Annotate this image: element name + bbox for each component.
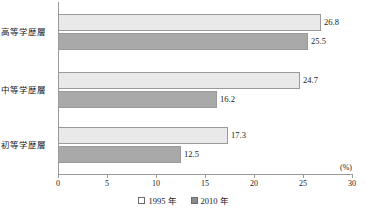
bar-2-1995 (58, 127, 228, 144)
legend-item-1995: 1995 年 (138, 194, 176, 206)
bar-chart: 高等学歴層 中等学歴層 初等学歴層 26.8 25.5 24.7 16.2 17… (0, 0, 367, 214)
x-tick-label-1: 5 (105, 179, 109, 188)
bar-value-0-1995: 26.8 (324, 14, 339, 31)
legend-label-1995: 1995 年 (148, 194, 176, 206)
x-tick-3 (205, 174, 206, 178)
x-tick-label-2: 10 (152, 179, 160, 188)
bar-value-0-2010: 25.5 (311, 33, 326, 50)
legend-item-2010: 2010 年 (191, 194, 229, 206)
bar-value-2-2010: 12.5 (184, 146, 199, 163)
bar-value-1-2010: 16.2 (220, 91, 235, 108)
bar-0-1995 (58, 14, 321, 31)
category-label-1: 中等学歴層 (1, 83, 57, 95)
bar-2-2010 (58, 146, 181, 163)
x-tick-label-3: 15 (201, 179, 209, 188)
bar-value-2-1995: 17.3 (231, 127, 246, 144)
x-tick-label-4: 20 (250, 179, 258, 188)
category-label-0: 高等学歴層 (1, 25, 57, 37)
open-square-icon (138, 197, 145, 204)
bar-1-2010 (58, 91, 217, 108)
x-tick-label-5: 25 (299, 179, 307, 188)
plot-area: 26.8 25.5 24.7 16.2 17.3 12.5 (58, 2, 352, 174)
x-tick-label-0: 0 (56, 179, 60, 188)
bar-value-1-1995: 24.7 (303, 72, 318, 89)
bar-1-1995 (58, 72, 300, 89)
category-axis-labels: 高等学歴層 中等学歴層 初等学歴層 (0, 0, 57, 176)
x-tick-label-6: 30 (348, 179, 356, 188)
x-tick-4 (254, 174, 255, 178)
category-label-2: 初等学歴層 (1, 138, 57, 150)
x-tick-6 (352, 174, 353, 178)
x-tick-1 (107, 174, 108, 178)
bar-0-2010 (58, 33, 308, 50)
legend-label-2010: 2010 年 (201, 194, 229, 206)
chart-legend: 1995 年 2010 年 (0, 194, 367, 206)
x-tick-2 (156, 174, 157, 178)
x-axis-unit-label: (%) (340, 163, 352, 172)
x-tick-0 (58, 174, 59, 178)
filled-square-icon (191, 197, 198, 204)
x-tick-5 (303, 174, 304, 178)
